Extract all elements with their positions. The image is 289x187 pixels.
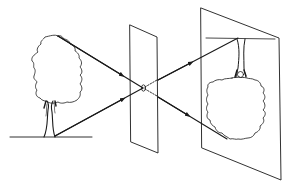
inverted-tree-canopy bbox=[207, 77, 266, 139]
barrier-plane bbox=[130, 25, 158, 153]
pinhole-camera-diagram bbox=[0, 0, 289, 187]
inverted-tree-image bbox=[206, 38, 275, 139]
hidden-ray-segments bbox=[145, 80, 157, 96]
outgoing-rays bbox=[158, 38, 238, 139]
inverted-ground-line bbox=[206, 38, 275, 39]
image-plane bbox=[201, 8, 281, 180]
tree-object bbox=[32, 35, 82, 137]
tree-trunk bbox=[44, 101, 55, 137]
tree-canopy bbox=[32, 35, 82, 103]
